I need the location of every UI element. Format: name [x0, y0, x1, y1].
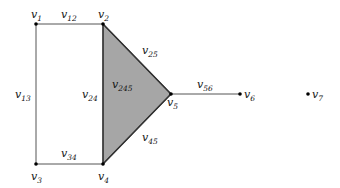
- vertex-label-v1: v1: [31, 8, 42, 23]
- edge-label-v34: v34: [61, 147, 77, 162]
- vertices-layer: [34, 22, 310, 166]
- vertex-v7: [306, 92, 310, 96]
- labels-layer: v245v12v13v24v34v25v45v56v1v2v3v4v5v6v7: [15, 8, 323, 185]
- simplicial-complex-diagram: v245v12v13v24v34v25v45v56v1v2v3v4v5v6v7: [0, 0, 340, 188]
- vertex-label-v6: v6: [244, 88, 255, 103]
- edge-label-v25: v25: [142, 44, 158, 59]
- faces-layer: [103, 24, 171, 164]
- edge-label-v24: v24: [82, 88, 98, 103]
- vertex-v6: [238, 92, 242, 96]
- vertex-label-v7: v7: [312, 88, 323, 103]
- vertex-label-v4: v4: [98, 170, 109, 185]
- vertex-label-v3: v3: [31, 170, 42, 185]
- vertex-label-v5: v5: [167, 96, 178, 111]
- vertex-label-v2: v2: [98, 8, 109, 23]
- edge-label-v12: v12: [61, 8, 77, 23]
- face-v245: [103, 24, 171, 164]
- edge-label-v56: v56: [197, 78, 213, 93]
- edge-label-v13: v13: [15, 88, 31, 103]
- vertex-v4: [101, 162, 105, 166]
- vertex-v3: [34, 162, 38, 166]
- edge-label-v45: v45: [142, 131, 158, 146]
